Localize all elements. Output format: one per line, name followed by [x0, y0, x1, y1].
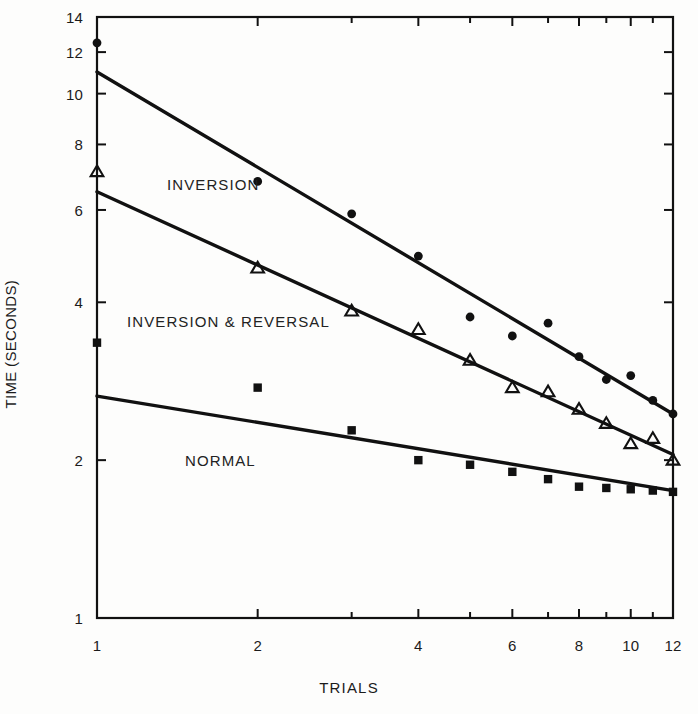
y-tick-2: 2: [39, 452, 83, 469]
series-label-inversion: INVERSION: [167, 176, 259, 193]
x-tick-2: 2: [253, 637, 262, 654]
y-tick-8: 8: [39, 136, 83, 153]
chart-canvas: [0, 0, 698, 714]
x-tick-6: 6: [508, 637, 517, 654]
x-tick-1: 1: [93, 637, 102, 654]
y-tick-12: 12: [39, 44, 83, 61]
x-tick-10: 10: [622, 637, 639, 654]
y-tick-14: 14: [39, 9, 83, 26]
x-tick-4: 4: [414, 637, 423, 654]
y-tick-4: 4: [39, 294, 83, 311]
x-tick-8: 8: [575, 637, 584, 654]
y-tick-1: 1: [39, 610, 83, 627]
chart-figure: 12468101214 124681012 TIME (SECONDS) TRI…: [0, 0, 698, 714]
y-tick-10: 10: [39, 85, 83, 102]
data-markers: [91, 38, 680, 496]
x-tick-12: 12: [664, 637, 681, 654]
y-axis-title: TIME (SECONDS): [2, 280, 19, 408]
series-label-inversion-reversal: INVERSION & REVERSAL: [127, 313, 330, 330]
trend-lines: [97, 72, 673, 491]
y-tick-6: 6: [39, 201, 83, 218]
series-label-normal: NORMAL: [185, 452, 256, 469]
x-axis-title: TRIALS: [0, 679, 698, 696]
